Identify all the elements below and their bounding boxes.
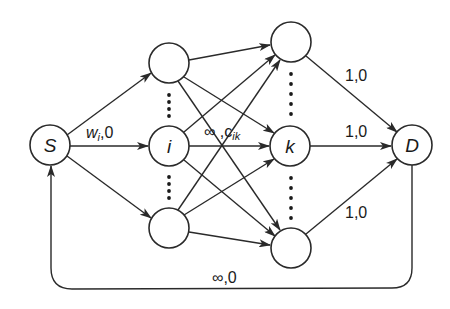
- node-k-label: k: [285, 136, 296, 157]
- ellipsis-dots-left-lower: [167, 175, 171, 200]
- edge-label-s-i: wi,0: [86, 124, 113, 143]
- edge-s-to-left-bottom: [67, 156, 151, 218]
- ellipsis-dots-right-upper: [289, 72, 293, 116]
- ellipsis-dots-left-upper: [167, 93, 171, 118]
- node-d: D: [392, 125, 432, 165]
- edge-leftbottom-to-k: [184, 159, 274, 215]
- edge-lefttop-to-rightbottom: [178, 81, 280, 230]
- edge-lefttop-to-righttop: [189, 45, 270, 60]
- edge-label-righttop-d: 1,0: [345, 67, 367, 84]
- edge-label-return: ∞,0: [212, 269, 237, 286]
- edge-rightbottom-to-d: [306, 159, 397, 234]
- edge-leftbottom-to-rightbottom: [189, 232, 270, 245]
- node-i: i: [149, 126, 189, 166]
- node-right-top: [271, 22, 311, 62]
- node-left-top: [149, 43, 189, 83]
- edge-label-rightbottom-d: 1,0: [345, 204, 367, 221]
- node-d-label: D: [405, 135, 419, 156]
- edge-label-k-d: 1,0: [345, 123, 367, 140]
- node-s-label: S: [44, 135, 57, 156]
- ellipsis-dots-right-lower: [289, 176, 293, 220]
- edge-i-to-righttop: [184, 55, 275, 132]
- node-right-bottom: [271, 228, 311, 268]
- node-left-bottom: [149, 208, 189, 248]
- node-k: k: [270, 126, 310, 166]
- node-s: S: [30, 125, 70, 165]
- flow-network-diagram: S i k D wi,0 ∞ ,cik 1,0 1,0 1,0 ∞,0: [0, 0, 450, 309]
- edge-i-to-rightbottom: [184, 160, 275, 236]
